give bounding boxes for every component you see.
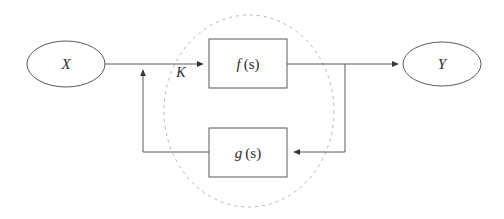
forward-block-label-fn: f bbox=[237, 56, 243, 72]
signal-output-tap-to-feedback-block bbox=[294, 64, 345, 152]
output-node-label: Y bbox=[438, 56, 448, 72]
feedback-block-label-arg: (s) bbox=[245, 145, 261, 162]
block-diagram-canvas: X Y f(s) g(s) K bbox=[0, 0, 504, 219]
feedback-block-label-fn: g bbox=[235, 145, 243, 161]
forward-block-label: f(s) bbox=[237, 56, 260, 73]
forward-block-label-arg: (s) bbox=[244, 56, 260, 73]
gain-label: K bbox=[175, 65, 186, 80]
signal-feedback-block-to-summing-junction bbox=[143, 70, 209, 152]
closed-loop-group-outline bbox=[164, 15, 334, 207]
feedback-block-label: g(s) bbox=[235, 145, 261, 162]
input-node-label: X bbox=[60, 56, 71, 72]
block-diagram-svg: X Y f(s) g(s) K bbox=[0, 0, 504, 219]
